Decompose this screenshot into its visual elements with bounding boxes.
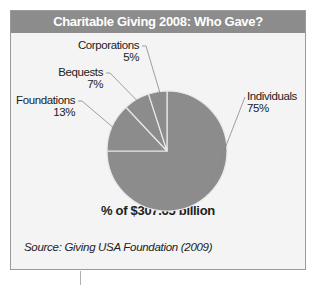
slice-value-corporations: 5% bbox=[123, 51, 139, 63]
leader-line-bequests bbox=[106, 73, 137, 101]
leader-line-corporations bbox=[142, 46, 160, 93]
slice-label-foundations: Foundations bbox=[16, 94, 76, 106]
pie-chart: Individuals75%Foundations13%Bequests7%Co… bbox=[0, 0, 317, 285]
slice-label-individuals: Individuals bbox=[247, 90, 298, 102]
slice-label-bequests: Bequests bbox=[58, 66, 103, 78]
slice-value-foundations: 13% bbox=[53, 106, 75, 118]
slice-value-bequests: 7% bbox=[87, 78, 103, 90]
connector-line bbox=[80, 271, 81, 285]
slice-label-corporations: Corporations bbox=[78, 39, 140, 51]
slice-value-individuals: 75% bbox=[247, 102, 269, 114]
leader-line-foundations bbox=[78, 101, 114, 128]
